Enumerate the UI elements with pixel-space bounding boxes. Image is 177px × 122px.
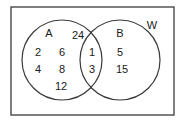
a-only-element: 6 — [59, 46, 65, 58]
b-only-element: 5 — [117, 46, 123, 58]
a-only-element: 2 — [35, 46, 41, 58]
universe-label: W — [147, 19, 158, 31]
a-only-element: 8 — [59, 63, 65, 75]
intersection-element: 1 — [89, 46, 95, 58]
set-a-label: A — [45, 27, 53, 39]
a-only-element: 4 — [35, 63, 41, 75]
a-only-element: 24 — [72, 29, 84, 41]
set-b-label: B — [116, 27, 123, 39]
venn-diagram: W A B 24 2 6 4 8 12 1 3 5 15 — [0, 0, 177, 122]
a-only-element: 12 — [55, 80, 67, 92]
b-only-element: 15 — [116, 63, 128, 75]
intersection-element: 3 — [89, 63, 95, 75]
